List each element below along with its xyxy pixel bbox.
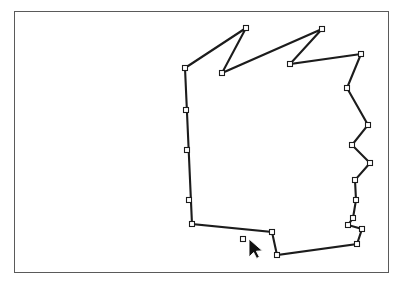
drawing-canvas[interactable] — [14, 11, 389, 273]
app-root — [0, 0, 403, 286]
